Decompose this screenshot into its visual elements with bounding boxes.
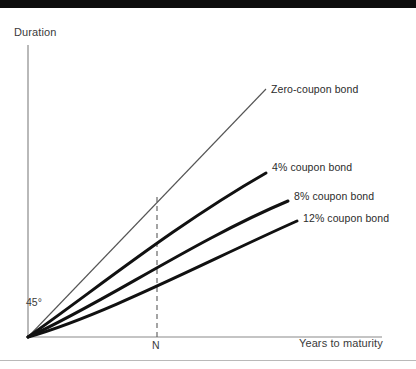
series-line-zero-coupon [28, 89, 266, 337]
series-label-coupon-8: 8% coupon bond [294, 190, 374, 202]
x-axis-title: Years to maturity [299, 337, 383, 349]
duration-vs-maturity-chart: Duration Years to maturity 45° N Zero-co… [0, 0, 416, 369]
series-label-coupon-12: 12% coupon bond [303, 212, 389, 224]
chart-plot-area [0, 0, 416, 369]
series-label-coupon-4: 4% coupon bond [272, 161, 352, 173]
y-axis-title: Duration [14, 26, 56, 38]
angle-annotation-label: 45° [26, 296, 42, 308]
x-axis-tick-label-n: N [152, 339, 160, 351]
series-label-zero-coupon: Zero-coupon bond [271, 83, 358, 95]
series-curve-coupon-8 [28, 201, 288, 337]
bottom-rule-divider [0, 360, 416, 361]
series-curve-coupon-4 [28, 173, 266, 337]
